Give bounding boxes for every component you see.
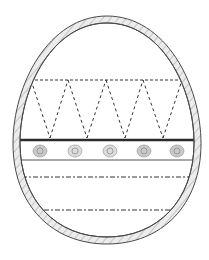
zigzag-segment — [87, 80, 106, 138]
zigzag-segment — [163, 80, 182, 138]
dot-band — [0, 140, 209, 160]
zigzag-segment — [68, 80, 87, 138]
band-dot — [33, 145, 47, 157]
zigzag-segment — [50, 80, 68, 138]
egg-interior — [0, 80, 209, 210]
band-dot — [103, 145, 117, 157]
zigzag-segment — [143, 80, 163, 138]
zigzag-segment — [31, 80, 50, 138]
zigzag-segment — [106, 80, 125, 138]
band-dot — [170, 145, 184, 157]
band-dot — [68, 145, 82, 157]
zigzag-segment — [125, 80, 143, 138]
band-dot — [137, 145, 151, 157]
egg-drawing — [0, 0, 209, 260]
zigzag-pattern — [0, 80, 209, 138]
